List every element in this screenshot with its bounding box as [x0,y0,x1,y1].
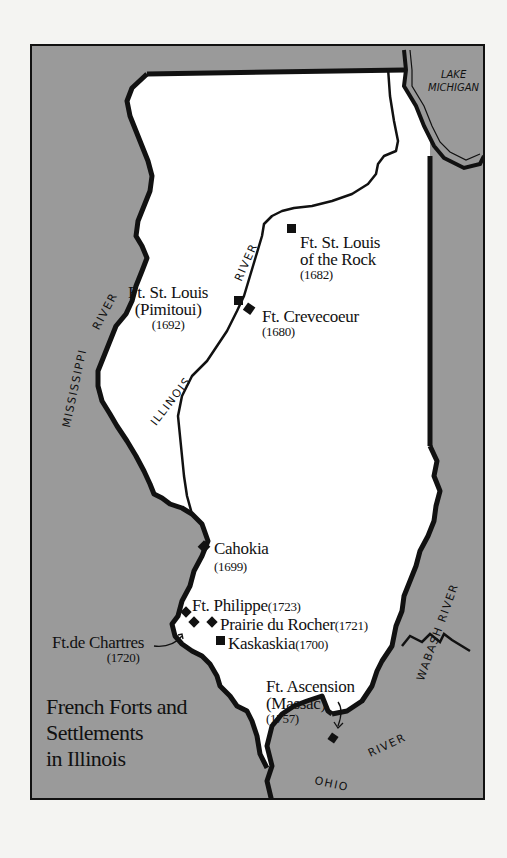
marker-ft-ascension[interactable] [327,732,338,743]
illinois-map [32,46,485,800]
map-title-line-3: in Illinois [46,746,187,772]
site-year: (1721) [335,618,368,633]
lake-label-line-1: LAKE [428,68,479,81]
site-name: Kaskaskia [228,634,295,653]
site-name: of the Rock [300,251,380,268]
site-year: (1720) [102,651,144,664]
site-ft-ascension[interactable]: Ft. Ascension (Massac) (1757) [266,678,355,725]
map-title-line-1: French Forts and [46,694,187,720]
map-frame: LAKE MICHIGAN MISSISSIPPI RIVER ILLINOIS… [30,44,485,800]
site-name: Ft. Philippe [192,596,268,615]
site-cahokia[interactable]: Cahokia (1699) [214,540,269,573]
site-prairie-du-rocher[interactable]: Prairie du Rocher(1721) [220,616,368,633]
site-name: (Massac) [266,695,355,712]
site-name: Prairie du Rocher [220,615,335,634]
marker-ft-st-louis-rock[interactable] [287,224,296,233]
site-name: Cahokia [214,540,269,557]
site-ft-st-louis-rock[interactable]: Ft. St. Louis of the Rock (1682) [300,234,380,281]
marker-ft-st-louis-pimitoui[interactable] [234,296,243,305]
site-ft-de-chartres[interactable]: Ft.de Chartres (1720) [52,634,144,664]
site-year: (1692) [128,318,208,331]
lake-michigan-label: LAKE MICHIGAN [428,68,479,94]
site-name: Ft. Crevecoeur [262,308,359,325]
site-ft-crevecoeur[interactable]: Ft. Crevecoeur (1680) [262,308,359,338]
site-name: (Pimitoui) [128,301,208,318]
site-year: (1723) [268,599,301,614]
site-ft-st-louis-pimitoui[interactable]: Ft. St. Louis (Pimitoui) (1692) [128,284,208,331]
site-name: Ft. St. Louis [128,284,208,301]
site-name: Ft. St. Louis [300,234,380,251]
site-year: (1682) [300,268,380,281]
site-year: (1757) [266,712,355,725]
map-title-line-2: Settlements [46,720,187,746]
site-kaskaskia[interactable]: Kaskaskia(1700) [228,635,328,652]
site-year: (1699) [214,560,269,573]
site-name: Ft. Ascension [266,678,355,695]
site-ft-philippe[interactable]: Ft. Philippe(1723) [192,597,301,614]
site-name: Ft.de Chartres [52,634,144,651]
site-year: (1680) [262,325,359,338]
marker-kaskaskia[interactable] [216,636,225,645]
lake-label-line-2: MICHIGAN [428,81,479,94]
site-year: (1700) [295,637,328,652]
map-title: French Forts and Settlements in Illinois [46,694,187,772]
